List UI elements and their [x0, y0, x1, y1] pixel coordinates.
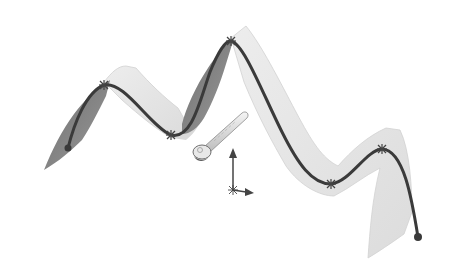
3d-viewport[interactable]: [0, 0, 463, 277]
axis-up-arrow-icon[interactable]: [229, 148, 237, 158]
surface-light-face: [104, 66, 186, 138]
axis-right-arrow-icon[interactable]: [245, 188, 254, 196]
surface-light-face: [231, 26, 412, 258]
knot-marker-icon[interactable]: [166, 130, 176, 140]
curve-end-point-icon[interactable]: [414, 233, 422, 241]
knot-marker-icon[interactable]: [226, 36, 236, 46]
curve-start-point-icon[interactable]: [65, 145, 72, 152]
scene-canvas[interactable]: [0, 0, 463, 277]
surface-dark-face-center: [182, 38, 234, 134]
swept-surface[interactable]: [104, 26, 412, 258]
handle-shaft: [205, 112, 248, 152]
knot-marker-icon[interactable]: [377, 144, 387, 154]
surface-dark-face-left: [44, 80, 110, 170]
knot-marker-icon[interactable]: [326, 179, 336, 189]
triad-origin-icon: [228, 185, 238, 195]
knot-marker-icon[interactable]: [99, 80, 109, 90]
axis-triad[interactable]: [228, 148, 254, 196]
